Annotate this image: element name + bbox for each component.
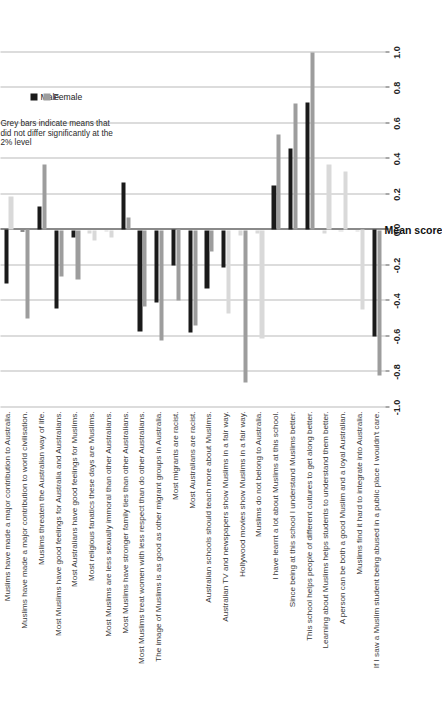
bar-male <box>137 230 141 331</box>
category-label: Muslims find it hard to integrate into A… <box>356 411 364 574</box>
gridline <box>0 371 385 372</box>
category-label: Most Muslims have stronger family ties t… <box>121 411 129 633</box>
bar-female <box>176 230 180 301</box>
gridline <box>0 406 385 407</box>
tick-label: -0.8 <box>391 364 401 380</box>
tick-mark <box>385 335 389 336</box>
category-label: Learning about Muslims helps students to… <box>322 411 330 648</box>
axis-title: Mean score <box>384 224 442 236</box>
bar-female <box>326 164 330 230</box>
legend-swatch-male <box>30 93 37 100</box>
bar-male <box>255 230 259 234</box>
bar-female <box>310 52 314 230</box>
category-label: Hollywood movies show Muslims in a fair … <box>239 411 247 576</box>
tick-mark <box>385 51 389 52</box>
bar-male <box>204 230 208 289</box>
category-label: Most migrants are racist. <box>172 411 180 500</box>
significance-annotation: Grey bars indicate means that did not di… <box>0 118 120 147</box>
bar-female <box>25 230 29 319</box>
category-label: The image of Muslims is as good as other… <box>155 411 163 661</box>
category-label: Most Australians are racist. <box>188 411 196 508</box>
tick-label: -0.2 <box>391 257 401 273</box>
tick-mark <box>385 87 389 88</box>
category-label: Australian schools should teach more abo… <box>205 411 213 602</box>
bar-female <box>193 230 197 326</box>
bar-female <box>209 230 213 251</box>
category-label: Muslims have made a major contribution t… <box>4 411 12 601</box>
category-label: Most Muslims treat women with less respe… <box>138 411 146 663</box>
tick-label: 0.8 <box>391 81 401 94</box>
category-label: A person can be both a good Muslim and a… <box>339 411 347 624</box>
bar-male <box>305 102 309 230</box>
category-label: Australian TV and newspapers show Muslim… <box>222 411 230 621</box>
bar-male <box>104 230 108 232</box>
bar-male <box>4 230 8 283</box>
bar-male <box>188 230 192 333</box>
tick-label: 0.4 <box>391 152 401 165</box>
bar-female <box>59 230 63 276</box>
bar-male <box>20 230 24 232</box>
bar-female <box>109 230 113 237</box>
category-label: Muslims have made a major contribution t… <box>21 411 29 628</box>
bar-female <box>377 230 381 376</box>
plot-area <box>0 52 385 407</box>
category-label: This school helps people of different cu… <box>306 411 314 640</box>
category-label: If I saw a Muslim student being abused i… <box>373 411 381 668</box>
bar-female <box>276 134 280 230</box>
legend-swatch-female <box>43 93 50 100</box>
bar-female <box>75 230 79 280</box>
tick-mark <box>385 300 389 301</box>
tick-label: -0.6 <box>391 328 401 344</box>
bar-female <box>293 103 297 229</box>
bar-female <box>142 230 146 306</box>
gridline <box>0 158 385 159</box>
bar-female <box>126 217 130 229</box>
bar-female <box>92 230 96 241</box>
bar-female <box>42 164 46 230</box>
bar-male <box>221 230 225 267</box>
category-label: Most Muslims have good feelings for Aust… <box>55 411 63 636</box>
bar-female <box>360 230 364 310</box>
category-label-column: Muslims have made a major contribution t… <box>0 407 385 707</box>
gridline <box>0 87 385 88</box>
bar-female <box>159 230 163 340</box>
legend-item-female[interactable]: Female <box>43 91 82 101</box>
bar-male <box>372 230 376 337</box>
tick-mark <box>385 158 389 159</box>
tick-label: 1.0 <box>391 46 401 59</box>
bar-male <box>121 182 125 230</box>
category-label: Muslims do not belong to Australia. <box>255 411 263 537</box>
bar-male <box>355 230 359 232</box>
bar-male <box>288 148 292 230</box>
category-label: Since being at this school I understand … <box>289 411 297 607</box>
bar-male <box>71 230 75 237</box>
gridline <box>0 51 385 52</box>
legend-label: Female <box>53 91 82 101</box>
bar-female <box>8 196 12 230</box>
tick-mark <box>385 371 389 372</box>
category-label: Most Muslims are less sexually immoral t… <box>105 411 113 636</box>
category-label: Most religious fanatics these days are M… <box>88 411 96 581</box>
tick-mark <box>385 193 389 194</box>
bar-female <box>343 171 347 230</box>
bar-male <box>37 206 41 229</box>
category-label: I have learnt a lot about Muslims at thi… <box>272 411 280 579</box>
bar-male <box>322 230 326 234</box>
tick-label: -1.0 <box>391 399 401 415</box>
tick-label: -0.4 <box>391 293 401 309</box>
category-label: Most Australians have good feelings for … <box>71 411 79 586</box>
tick-mark <box>385 122 389 123</box>
bar-female <box>259 230 263 338</box>
bar-male <box>271 185 275 229</box>
tick-label: 0.2 <box>391 188 401 201</box>
bar-male <box>338 230 342 232</box>
bar-female <box>243 230 247 383</box>
gridline <box>0 335 385 336</box>
bar-male <box>154 230 158 303</box>
bar-male <box>171 230 175 266</box>
tick-mark <box>385 264 389 265</box>
bar-male <box>238 230 242 235</box>
bar-male <box>87 230 91 234</box>
tick-label: 0.6 <box>391 117 401 130</box>
